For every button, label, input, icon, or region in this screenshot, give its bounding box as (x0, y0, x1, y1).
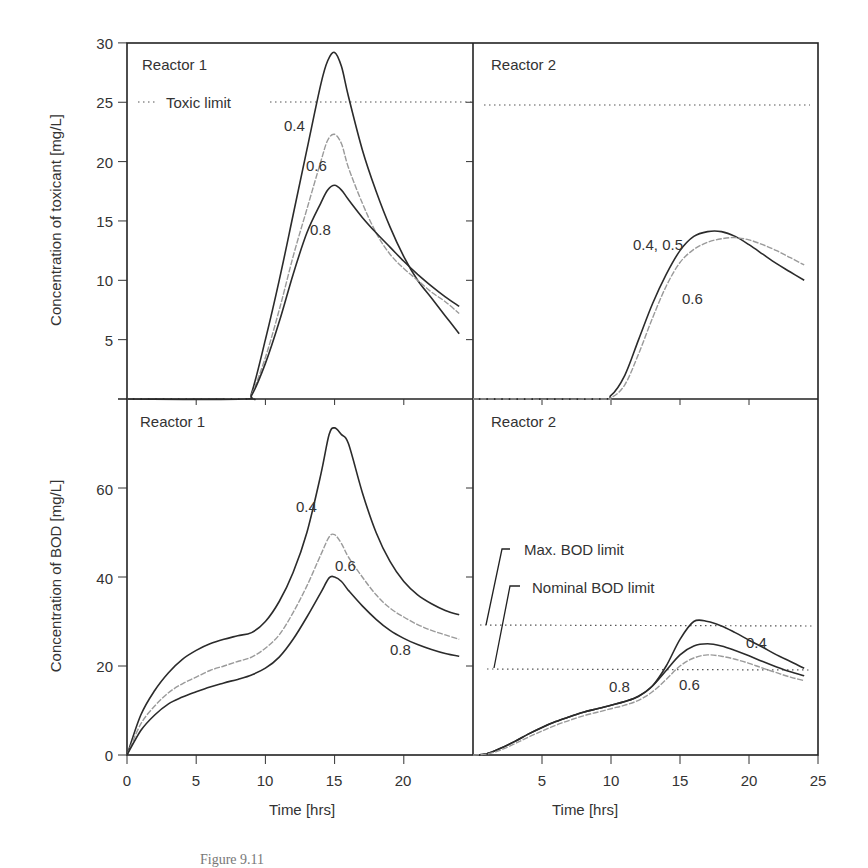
curve-label-br-0.4: 0.4 (746, 634, 767, 651)
curve-label-bl-0.6: 0.6 (335, 557, 356, 574)
tick-label: 20 (741, 772, 758, 789)
tick-label: 10 (603, 772, 620, 789)
curve-label-bl-0.8: 0.8 (390, 641, 411, 658)
curve-labels: 0.4 0.6 0.8 0.4, 0.5 0.6 0.4 0.6 0.8 0.4… (284, 117, 767, 695)
max-bod-limit-label: Max. BOD limit (524, 541, 625, 558)
curve-label-br-0.8: 0.8 (609, 678, 630, 695)
curve-bottom-right-0.6 (473, 655, 804, 755)
panel-title-bottom-right: Reactor 2 (491, 413, 556, 430)
tick-label: 20 (96, 658, 113, 675)
tick-label: 0 (105, 747, 113, 764)
tick-label: 0 (123, 772, 131, 789)
figure-caption: Figure 9.11 (200, 852, 264, 868)
curve-label-tl-0.4: 0.4 (284, 117, 305, 134)
max-bod-limit-line (480, 625, 812, 626)
tick-label: 5 (538, 772, 546, 789)
curve-label-br-0.6: 0.6 (679, 676, 700, 693)
curve-bottom-right-0.8 (473, 644, 804, 755)
curve-label-tl-0.8: 0.8 (310, 221, 331, 238)
left-x-axis-label: Time [hrs] (269, 801, 335, 818)
panel-title-bottom-left: Reactor 1 (140, 413, 205, 430)
tick-label: 10 (257, 772, 274, 789)
data-curves (127, 52, 804, 755)
tick-label: 30 (96, 35, 113, 52)
panel-title-top-left: Reactor 1 (142, 56, 207, 73)
tick-label: 40 (96, 570, 113, 587)
limit-lines (138, 102, 812, 670)
curve-bottom-left-0.4 (127, 428, 459, 755)
nominal-bod-limit-line (487, 669, 812, 670)
curve-label-tr-0.6: 0.6 (682, 290, 703, 307)
toxicant-y-ticks: 5 10 15 20 25 30 (96, 35, 113, 349)
tick-label: 25 (96, 94, 113, 111)
toxic-limit-legend-label: Toxic limit (166, 94, 232, 111)
curve-label-bl-0.4: 0.4 (296, 498, 317, 515)
curve-top-right-0.4-0.5 (473, 231, 804, 399)
bod-y-axis-label: Concentration of BOD [mg/L] (47, 480, 64, 673)
tick-label: 60 (96, 481, 113, 498)
panel-title-top-right: Reactor 2 (491, 56, 556, 73)
curve-label-tl-0.6: 0.6 (306, 157, 327, 174)
tick-label: 5 (192, 772, 200, 789)
left-x-ticks: 0 5 10 15 20 (123, 772, 412, 789)
tick-label: 5 (105, 332, 113, 349)
curve-bottom-left-0.8 (127, 576, 459, 755)
bod-y-ticks: 0 20 40 60 (96, 481, 113, 764)
tick-label: 15 (672, 772, 689, 789)
tick-label: 20 (96, 154, 113, 171)
axis-ticks (118, 43, 818, 764)
bod-limit-leaders (486, 549, 520, 668)
toxicant-y-axis-label: Concentration of toxicant [mg/L] (47, 114, 64, 326)
nominal-bod-limit-label: Nominal BOD limit (532, 579, 655, 596)
curve-label-tr-0.4-0.5: 0.4, 0.5 (633, 236, 683, 253)
curve-top-right-0.6 (473, 238, 804, 400)
right-x-ticks: 5 10 15 20 25 (538, 772, 827, 789)
tick-label: 10 (96, 272, 113, 289)
tick-label: 20 (395, 772, 412, 789)
tick-label: 15 (326, 772, 343, 789)
tick-label: 15 (96, 213, 113, 230)
tick-label: 25 (810, 772, 827, 789)
right-x-axis-label: Time [hrs] (552, 801, 618, 818)
